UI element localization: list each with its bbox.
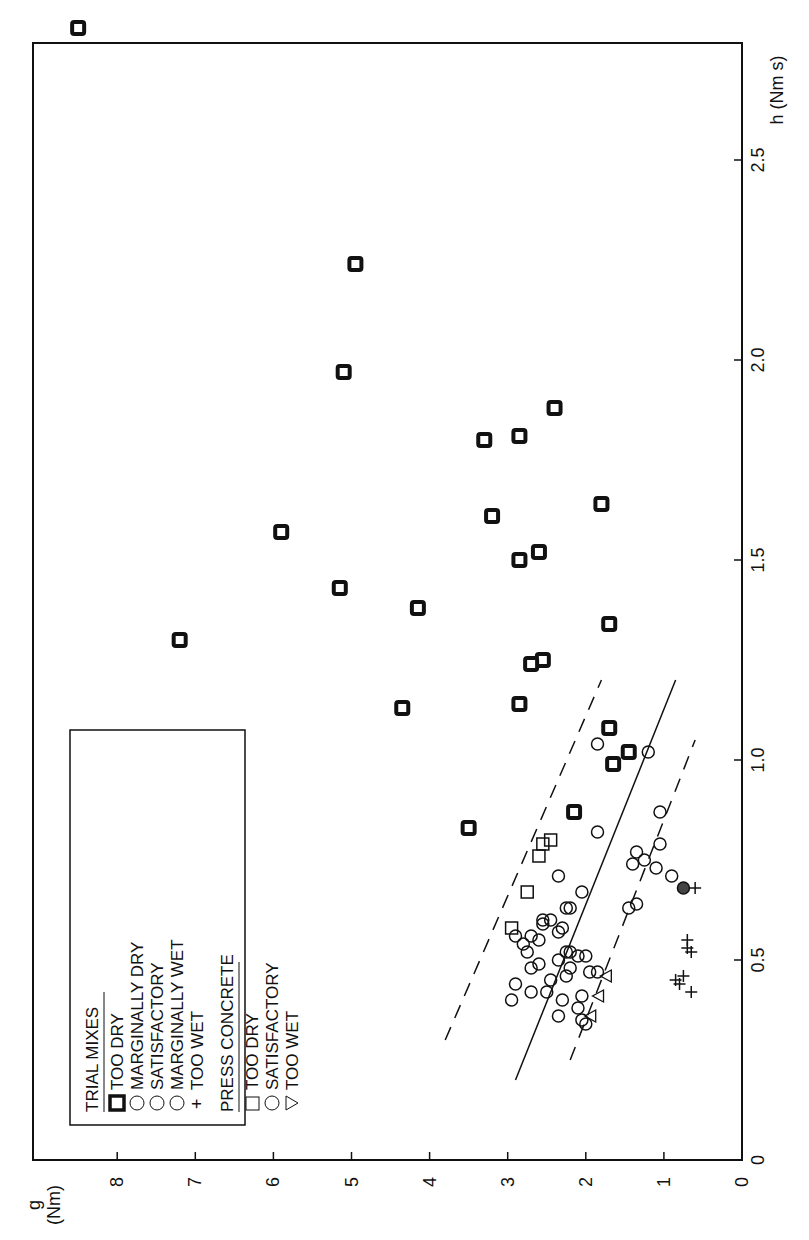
g-tick-label: 1 <box>654 1177 674 1187</box>
legend-item: TOO DRY <box>243 1013 262 1090</box>
g-tick-label: 2 <box>576 1177 596 1187</box>
too-dry-point <box>623 746 635 758</box>
h-tick-label: 0.5 <box>748 947 768 972</box>
too-dry-point <box>607 758 619 770</box>
too-dry-point <box>72 22 84 34</box>
h-axis: 00.51.01.52.02.5 <box>734 147 768 1165</box>
square-point <box>533 850 545 862</box>
too-dry-point <box>275 526 287 538</box>
plus-marker-icon: + <box>187 1098 207 1109</box>
too-dry-point <box>349 258 361 270</box>
too-dry-point <box>478 434 490 446</box>
circle-point <box>654 838 666 850</box>
plus-point <box>689 882 701 894</box>
g-tick-label: 7 <box>185 1177 205 1187</box>
circle-point <box>627 858 639 870</box>
too-dry-point <box>533 546 545 558</box>
scatter-chart: 012345678 00.51.01.52.02.5 g (Nm) h (Nm … <box>0 0 809 1240</box>
too-dry-point <box>568 806 580 818</box>
too-dry-point <box>396 702 408 714</box>
circle-point <box>556 994 568 1006</box>
g-tick-label: 5 <box>342 1177 362 1187</box>
circle-point <box>576 886 588 898</box>
circle-point <box>552 870 564 882</box>
circle-point <box>506 994 518 1006</box>
svg-text:(Nm): (Nm) <box>44 1185 64 1225</box>
too-dry-point <box>174 634 186 646</box>
too-dry-point <box>603 618 615 630</box>
g-tick-label: 0 <box>732 1177 752 1187</box>
too-dry-point <box>486 510 498 522</box>
too-dry-point <box>595 498 607 510</box>
legend-item: MARGINALLY WET <box>168 939 187 1090</box>
h-tick-label: 0 <box>748 1155 768 1165</box>
circle-point <box>654 806 666 818</box>
too-dry-point <box>603 722 615 734</box>
hatched-circle-point <box>677 882 689 894</box>
legend-item: TOO WET <box>283 1011 302 1090</box>
svg-text:g: g <box>24 1200 44 1210</box>
h-axis-label: h (Nm s) <box>767 56 787 125</box>
circle-point <box>666 870 678 882</box>
triangle-marker-icon <box>286 1096 298 1110</box>
h-tick-label: 2.5 <box>748 147 768 172</box>
circle-marker-icon <box>265 1096 279 1110</box>
square-point <box>545 834 557 846</box>
g-tick-label: 8 <box>107 1177 127 1187</box>
too-dry-point <box>513 430 525 442</box>
too-dry-point <box>412 602 424 614</box>
circle-point <box>576 990 588 1002</box>
circle-point <box>584 966 596 978</box>
triangle-point <box>593 990 604 1002</box>
too-dry-point <box>549 402 561 414</box>
legend-item: SATISFACTORY <box>148 962 167 1090</box>
circle-point <box>631 846 643 858</box>
too-dry-point <box>525 658 537 670</box>
circle-point <box>552 1010 564 1022</box>
circle-point <box>572 1002 584 1014</box>
too-dry-point <box>513 698 525 710</box>
too-dry-point <box>334 582 346 594</box>
circle-point <box>592 826 604 838</box>
circle-point <box>650 862 662 874</box>
circle-point <box>638 854 650 866</box>
reference-lines <box>445 680 695 1080</box>
legend-group2-title: PRESS CONCRETE <box>218 954 237 1112</box>
legend-item: SATISFACTORY <box>263 962 282 1090</box>
circle-point <box>510 978 522 990</box>
legend: TRIAL MIXES TOO DRY MARGINALLY DRY SATIS… <box>70 730 302 1125</box>
square-marker-icon <box>246 1097 259 1110</box>
square-point <box>537 838 549 850</box>
square-point <box>521 886 533 898</box>
too-dry-point <box>463 822 475 834</box>
g-tick-label: 4 <box>420 1177 440 1187</box>
dashed-line <box>445 680 601 1040</box>
legend-item: TOO WET <box>188 1011 207 1090</box>
h-tick-label: 1.5 <box>748 547 768 572</box>
legend-group1-title: TRIAL MIXES <box>83 1007 102 1112</box>
too-dry-point <box>513 554 525 566</box>
plus-point <box>685 986 697 998</box>
h-tick-label: 1.0 <box>748 747 768 772</box>
g-tick-label: 6 <box>263 1177 283 1187</box>
h-tick-label: 2.0 <box>748 347 768 372</box>
circle-point <box>525 986 537 998</box>
circle-point <box>592 738 604 750</box>
circle-point <box>552 954 564 966</box>
g-axis-label: g (Nm) <box>24 1185 64 1225</box>
too-dry-point <box>338 366 350 378</box>
g-tick-label: 3 <box>498 1177 518 1187</box>
legend-item: MARGINALLY DRY <box>128 942 147 1090</box>
g-axis: 012345678 <box>107 1152 752 1187</box>
circle-point <box>580 950 592 962</box>
circle-point <box>510 930 522 942</box>
legend-item: TOO DRY <box>108 1013 127 1090</box>
